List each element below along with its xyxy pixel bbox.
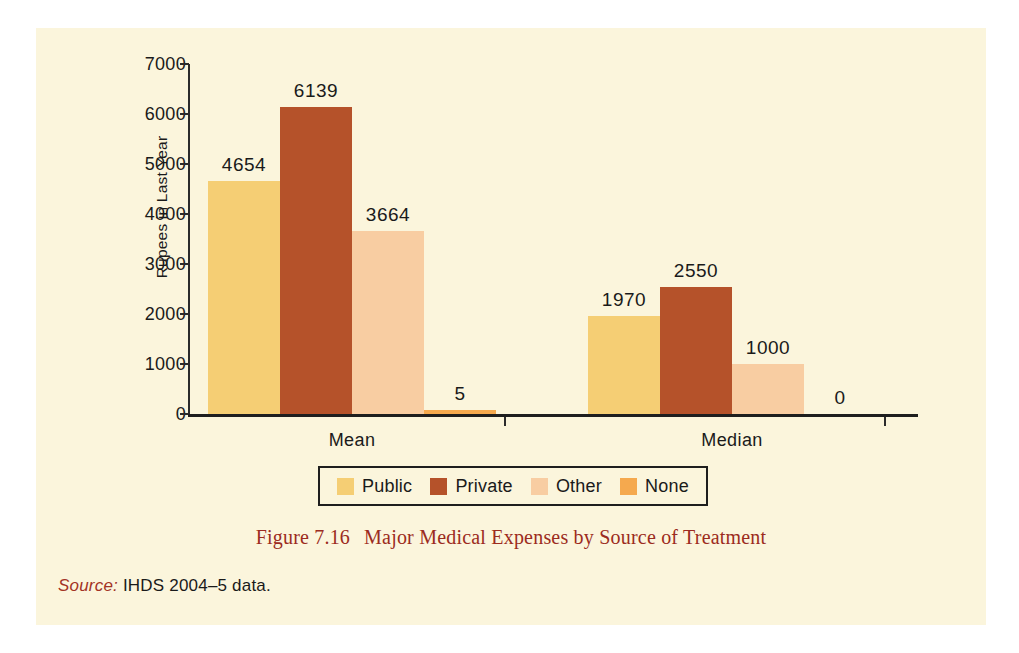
x-tick-mark bbox=[504, 417, 506, 426]
legend-item-public[interactable]: Public bbox=[337, 476, 412, 497]
bar-value-label: 5 bbox=[454, 383, 465, 405]
bar-value-label: 2550 bbox=[674, 260, 718, 282]
bar-value-label: 3664 bbox=[366, 204, 410, 226]
y-tick-label: 5000 bbox=[126, 154, 186, 175]
legend-swatch-none bbox=[620, 478, 637, 495]
bar-none-mean bbox=[424, 410, 496, 414]
bar-public-mean bbox=[208, 181, 280, 414]
x-axis-label-median: Median bbox=[701, 430, 762, 451]
bar-value-label: 1970 bbox=[602, 289, 646, 311]
bars-layer: 46546139366451970255010000 bbox=[190, 64, 918, 414]
y-tick-label: 3000 bbox=[126, 254, 186, 275]
y-tick-label: 1000 bbox=[126, 354, 186, 375]
source-line: Source: IHDS 2004–5 data. bbox=[58, 576, 271, 596]
caption-title: Major Medical Expenses by Source of Trea… bbox=[364, 526, 766, 548]
y-tick-label: 2000 bbox=[126, 304, 186, 325]
bar-private-median bbox=[660, 287, 732, 415]
legend-label: Other bbox=[556, 476, 602, 497]
y-tick-label: 0 bbox=[126, 404, 186, 425]
bar-value-label: 6139 bbox=[294, 80, 338, 102]
figure-panel: Rupees in Last Year 01000200030004000500… bbox=[36, 28, 986, 625]
source-label: Source: bbox=[58, 576, 118, 595]
plot-area: Rupees in Last Year 01000200030004000500… bbox=[100, 48, 930, 448]
caption-number: Figure 7.16 bbox=[256, 526, 350, 548]
chart-legend: PublicPrivateOtherNone bbox=[318, 466, 708, 506]
x-axis-line bbox=[188, 414, 918, 417]
bar-private-mean bbox=[280, 107, 352, 414]
legend-label: None bbox=[645, 476, 689, 497]
y-tick-label: 4000 bbox=[126, 204, 186, 225]
legend-item-other[interactable]: Other bbox=[531, 476, 602, 497]
legend-label: Private bbox=[455, 476, 512, 497]
bar-public-median bbox=[588, 316, 660, 415]
legend-item-none[interactable]: None bbox=[620, 476, 689, 497]
y-tick-label: 6000 bbox=[126, 104, 186, 125]
bar-value-label: 4654 bbox=[222, 154, 266, 176]
bar-other-median bbox=[732, 364, 804, 414]
bar-value-label: 0 bbox=[834, 387, 845, 409]
legend-label: Public bbox=[362, 476, 412, 497]
legend-swatch-other bbox=[531, 478, 548, 495]
legend-swatch-public bbox=[337, 478, 354, 495]
bar-value-label: 1000 bbox=[746, 337, 790, 359]
x-axis-label-mean: Mean bbox=[329, 430, 376, 451]
source-text: IHDS 2004–5 data. bbox=[118, 576, 271, 595]
x-tick-mark bbox=[884, 417, 886, 426]
legend-swatch-private bbox=[430, 478, 447, 495]
bar-other-mean bbox=[352, 231, 424, 414]
legend-item-private[interactable]: Private bbox=[430, 476, 512, 497]
figure-caption: Figure 7.16Major Medical Expenses by Sou… bbox=[36, 526, 986, 549]
y-tick-label: 7000 bbox=[126, 54, 186, 75]
